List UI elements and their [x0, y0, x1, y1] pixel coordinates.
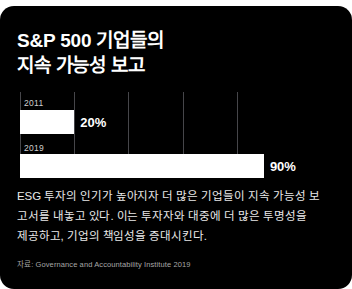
infographic-card: S&P 500 기업들의 지속 가능성 보고 2011 20% 2019 90%…: [0, 6, 352, 289]
body-line-3: 제공하고, 기업의 책임성을 증대시킨다.: [17, 226, 339, 246]
bar-2011: [20, 110, 74, 134]
bar-year-label-2011: 2011: [24, 98, 43, 108]
bar-2019: [20, 154, 264, 178]
body-line-2: 고서를 내놓고 있다. 이는 투자자와 대중에 더 많은 투명성을: [17, 206, 339, 226]
gridline-2: [128, 92, 129, 154]
bar-year-label-2019: 2019: [24, 143, 44, 153]
gridline-3: [183, 92, 184, 154]
gridline-4: [237, 92, 238, 154]
bar-value-2011: 20%: [80, 115, 106, 130]
bar-chart: 2011 20% 2019 90%: [0, 6, 352, 289]
bar-value-2019: 90%: [270, 159, 296, 174]
body-line-1: ESG 투자의 인기가 높아지자 더 많은 기업들이 지속 가능성 보: [17, 186, 339, 206]
body-text: ESG 투자의 인기가 높아지자 더 많은 기업들이 지속 가능성 보 고서를 …: [17, 186, 339, 246]
source-citation: 자료: Governance and Accountability Instit…: [17, 258, 190, 269]
